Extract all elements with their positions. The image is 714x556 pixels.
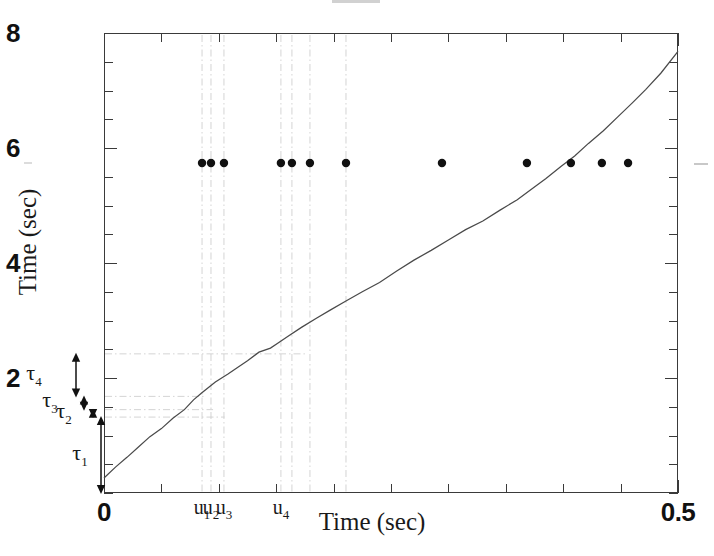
y-tick xyxy=(104,464,113,465)
y-tick-right xyxy=(669,62,678,63)
tau-label-base: τ xyxy=(42,387,51,412)
x-axis-title-text: Time (sec) xyxy=(319,508,426,535)
y-tick-label-6: 6 xyxy=(6,133,20,164)
y-tick-right xyxy=(669,493,678,494)
u-label-index: 4 xyxy=(283,507,290,522)
y-tick xyxy=(104,119,113,120)
x-tick xyxy=(506,484,507,493)
tau-arrow-head-bottom xyxy=(72,388,80,397)
y-tick xyxy=(104,263,117,264)
y-tick xyxy=(104,493,113,494)
tau-arrow-head-top xyxy=(72,353,80,362)
x-tick-top xyxy=(391,33,392,42)
y-tick-right xyxy=(669,119,678,120)
tau-label-3: τ3 xyxy=(42,387,57,416)
y-tick-right xyxy=(669,206,678,207)
x-tick-top xyxy=(621,33,622,42)
x-tick-top xyxy=(448,33,449,42)
y-tick xyxy=(104,206,113,207)
tau-label-index: 2 xyxy=(65,412,72,427)
y-tick xyxy=(104,349,113,350)
x-tick xyxy=(391,484,392,493)
y-axis-title-text: Time (sec) xyxy=(14,189,41,296)
y-tick xyxy=(104,292,113,293)
x-tick-label-0: 0 xyxy=(74,497,134,528)
tau-arrow-head-top xyxy=(80,395,88,404)
y-tick-right xyxy=(669,292,678,293)
y-tick-right xyxy=(669,349,678,350)
y-tick-right xyxy=(669,407,678,408)
x-tick-top xyxy=(104,33,105,46)
x-tick xyxy=(161,484,162,493)
tau-arrow-group xyxy=(72,353,105,494)
u-label-base: u xyxy=(273,496,283,518)
tau-arrow-head-bottom xyxy=(80,402,88,411)
x-tick-top xyxy=(161,33,162,42)
y-tick-right xyxy=(669,464,678,465)
y-tick xyxy=(104,234,113,235)
y-tick xyxy=(104,407,113,408)
tau-label-base: τ xyxy=(72,440,81,465)
tau-arrow-head-top xyxy=(89,409,97,418)
y-tick-right xyxy=(665,378,678,379)
x-tick xyxy=(334,484,335,493)
y-tick-right xyxy=(669,436,678,437)
y-tick-right xyxy=(665,33,678,34)
y-tick-label-8: 8 xyxy=(6,18,20,49)
x-tick xyxy=(219,484,220,493)
x-tick xyxy=(678,480,679,493)
x-tick-top xyxy=(276,33,277,42)
u-label-4: u4 xyxy=(273,496,290,523)
y-tick-right xyxy=(669,91,678,92)
x-tick-top xyxy=(334,33,335,42)
u-label-base: u xyxy=(216,496,226,518)
y-tick xyxy=(104,148,117,149)
tau-label-index: 3 xyxy=(51,401,58,416)
plot-area xyxy=(104,33,678,493)
x-tick xyxy=(276,484,277,493)
x-tick xyxy=(104,480,105,493)
scan-artifact-left xyxy=(24,162,32,164)
x-tick-top xyxy=(678,33,679,46)
figure-canvas: Time (sec) Time (sec) 8 6 4 2 0 0.5 u1u2… xyxy=(0,0,714,556)
x-tick xyxy=(621,484,622,493)
u-label-base: u xyxy=(203,496,213,518)
x-tick-label-05: 0.5 xyxy=(648,497,708,528)
u-label-index: 3 xyxy=(226,507,233,522)
y-tick-label-2: 2 xyxy=(6,363,20,394)
tau-label-4: τ4 xyxy=(26,360,41,389)
y-tick xyxy=(104,91,113,92)
y-tick xyxy=(104,378,117,379)
scan-artifact-top xyxy=(332,0,380,3)
tau-arrow-head-bottom xyxy=(89,409,97,418)
y-tick-right xyxy=(669,234,678,235)
tau-label-index: 4 xyxy=(35,374,42,389)
x-tick-top xyxy=(563,33,564,42)
y-tick xyxy=(104,33,117,34)
y-tick-right xyxy=(665,148,678,149)
y-tick xyxy=(104,321,113,322)
y-tick xyxy=(104,62,113,63)
y-tick-right xyxy=(669,321,678,322)
x-tick-top xyxy=(506,33,507,42)
y-tick xyxy=(104,436,113,437)
tau-label-1: τ1 xyxy=(72,440,87,469)
x-tick xyxy=(448,484,449,493)
tau-label-2: τ2 xyxy=(56,398,71,427)
y-tick-right xyxy=(669,177,678,178)
x-tick xyxy=(563,484,564,493)
y-tick-label-4: 4 xyxy=(6,248,20,279)
tau-label-index: 1 xyxy=(81,454,88,469)
u-label-3: u3 xyxy=(216,496,233,523)
y-tick-right xyxy=(665,263,678,264)
tau-label-base: τ xyxy=(26,360,35,385)
x-tick-top xyxy=(219,33,220,42)
y-tick xyxy=(104,177,113,178)
scan-artifact-right xyxy=(694,163,708,165)
